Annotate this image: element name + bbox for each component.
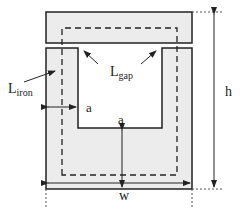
magnetic-core-diagram: Liron Lgap a a h w	[0, 0, 243, 208]
a-side-label: a	[86, 100, 92, 115]
l-gap-arrow-left	[84, 51, 98, 64]
a-bottom-label: a	[118, 112, 124, 127]
w-label: w	[119, 188, 130, 203]
l-gap-label: Lgap	[110, 64, 133, 81]
h-label: h	[225, 84, 232, 99]
l-gap-arrow-right	[141, 51, 156, 64]
l-iron-label: Liron	[8, 81, 33, 98]
